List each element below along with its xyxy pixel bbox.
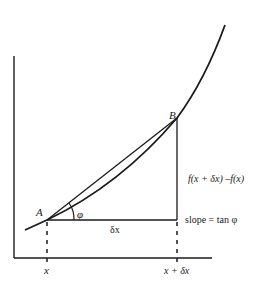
angle-phi-label: φ — [77, 208, 83, 220]
slope-label: slope = tan φ — [185, 214, 237, 225]
rise-label: f(x + δx) –f(x) — [188, 173, 245, 185]
point-b-label: B — [169, 109, 176, 121]
point-a-label: A — [35, 206, 43, 218]
diagram-canvas: A B φ δx f(x + δx) –f(x) slope = tan φ x… — [0, 0, 270, 287]
x-tick-label: x — [43, 264, 49, 276]
secant-chord — [47, 118, 177, 220]
delta-x-label: δx — [110, 224, 120, 235]
x-plus-dx-tick-label: x + δx — [163, 265, 190, 276]
function-curve — [25, 25, 225, 230]
